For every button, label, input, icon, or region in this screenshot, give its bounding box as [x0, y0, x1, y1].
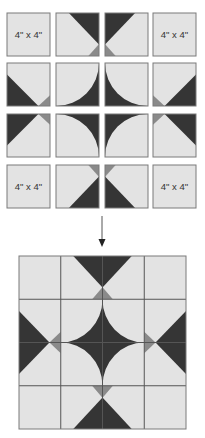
- block-cell: [19, 256, 61, 299]
- plain-square-tile: 4" x 4": [7, 13, 50, 56]
- block-cell: [103, 343, 145, 386]
- block-cell: [61, 343, 103, 386]
- plain-square-tile: 4" x 4": [153, 13, 196, 56]
- quilt-diagram: 4" x 4"4" x 4"4" x 4"4" x 4": [0, 0, 205, 438]
- block-cell: [144, 299, 186, 342]
- corner-tile: [105, 165, 148, 208]
- block-cell: [19, 343, 61, 386]
- tile-size-label: 4" x 4": [161, 29, 188, 40]
- corner-tile: [56, 165, 99, 208]
- corner-tile: [153, 63, 196, 106]
- arc-tile: [56, 63, 99, 106]
- block-cell: [144, 256, 186, 299]
- block-cell: [19, 386, 61, 429]
- assembled-block: [19, 256, 186, 429]
- tile-size-label: 4" x 4": [161, 181, 188, 192]
- block-cell: [19, 299, 61, 342]
- plain-square-tile: 4" x 4": [7, 165, 50, 208]
- block-cell: [103, 256, 145, 299]
- arc-tile: [56, 114, 99, 157]
- block-cell: [61, 386, 103, 429]
- corner-tile: [7, 114, 50, 157]
- block-cell: [61, 256, 103, 299]
- block-cell: [144, 343, 186, 386]
- corner-tile: [105, 13, 148, 56]
- block-cell: [103, 299, 145, 342]
- block-cell: [144, 386, 186, 429]
- arc-tile: [105, 63, 148, 106]
- arc-tile: [105, 114, 148, 157]
- corner-tile: [7, 63, 50, 106]
- unit-tiles-grid: 4" x 4"4" x 4"4" x 4"4" x 4": [7, 13, 196, 208]
- corner-tile: [153, 114, 196, 157]
- corner-tile: [56, 13, 99, 56]
- tile-size-label: 4" x 4": [15, 29, 42, 40]
- block-cell: [103, 386, 145, 429]
- block-cell: [61, 299, 103, 342]
- tile-size-label: 4" x 4": [15, 181, 42, 192]
- plain-square-tile: 4" x 4": [153, 165, 196, 208]
- down-arrow-icon: [99, 216, 106, 247]
